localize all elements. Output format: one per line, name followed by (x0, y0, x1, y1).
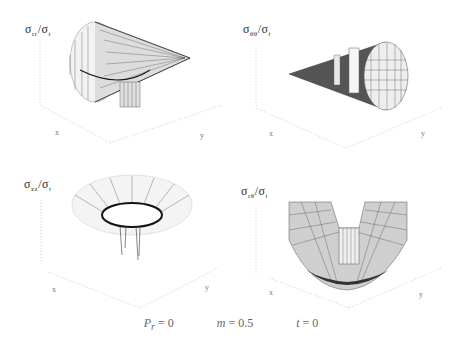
caption-param-m: m = 0.5 (217, 316, 253, 330)
panel-sigma-thetatheta: σθθ/σt x y (231, 0, 462, 165)
surface-plot-cone-left: x y (231, 0, 462, 165)
svg-text:x: x (269, 129, 273, 138)
caption-param-t: t = 0 (296, 316, 318, 330)
svg-text:x: x (52, 285, 56, 294)
surface-plot-cone-right: x y (0, 0, 231, 165)
panel-sigma-rtheta: σrθ/σt x y (231, 160, 462, 325)
svg-text:y: y (200, 131, 204, 140)
svg-text:x: x (55, 128, 59, 137)
surface-plot-funnel: x y (0, 160, 231, 310)
figure-caption: Pr = 0 m = 0.5 t = 0 (0, 316, 462, 332)
svg-text:y: y (421, 129, 425, 138)
svg-text:x: x (269, 288, 273, 297)
svg-text:y: y (205, 283, 209, 292)
surface-plot-v-trough: x y (231, 160, 462, 310)
panel-sigma-rr: σrr/σt x y (0, 0, 231, 165)
panel-sigma-zz: σzz/σt x y (0, 160, 231, 325)
caption-param-p: Pr = 0 (144, 316, 174, 330)
svg-text:y: y (419, 290, 423, 299)
